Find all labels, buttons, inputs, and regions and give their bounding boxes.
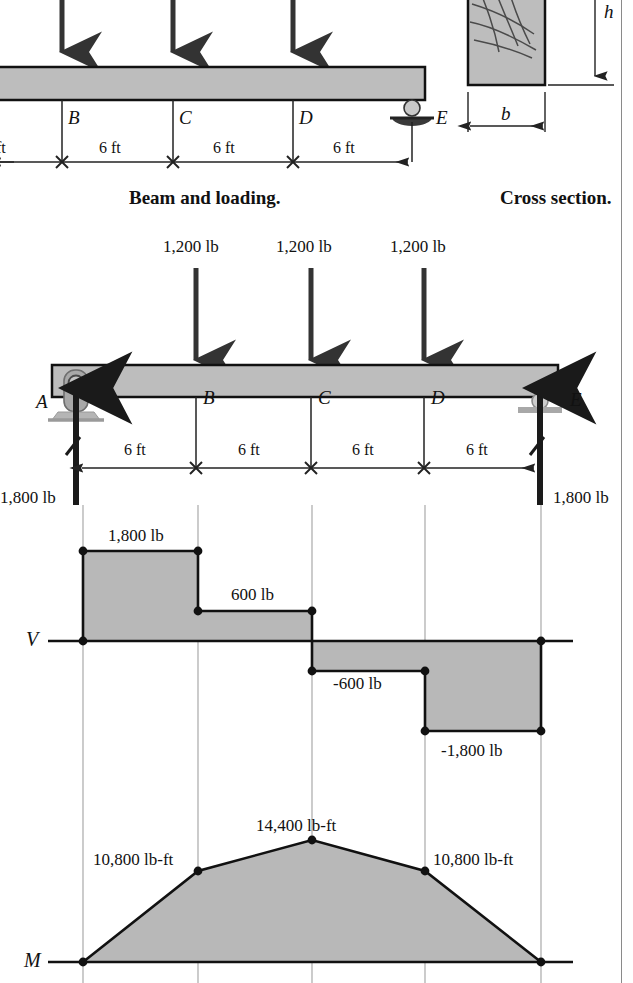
reaction-label-e: 1,800 lb bbox=[553, 489, 609, 506]
shear-annotation-cd: -600 lb bbox=[333, 675, 382, 692]
top-beam-body bbox=[0, 67, 425, 100]
main-beam-station-lines bbox=[196, 397, 424, 468]
top-beam-load-arrows bbox=[62, 0, 293, 52]
main-beam-group bbox=[48, 268, 562, 505]
load-label-b: 1,200 lb bbox=[163, 238, 219, 255]
top-beam-span-label-4: 6 ft bbox=[333, 140, 355, 156]
cross-section-rect bbox=[468, 0, 545, 85]
cross-section-group bbox=[468, 0, 614, 132]
beam-span-label-4: 6 ft bbox=[466, 442, 488, 458]
beam-span-label-1: 6 ft bbox=[124, 442, 146, 458]
beam-point-label-e: E bbox=[570, 390, 582, 409]
top-beam-point-label-c: C bbox=[179, 108, 192, 127]
main-beam-body bbox=[52, 365, 558, 397]
main-beam-dimension-line bbox=[82, 462, 534, 474]
moment-axis-label: M bbox=[24, 950, 41, 970]
top-beam-span-label-1: ft bbox=[0, 140, 6, 156]
beam-span-label-2: 6 ft bbox=[238, 442, 260, 458]
moment-annotation-d: 10,800 lb-ft bbox=[433, 851, 513, 868]
cross-section-width-label: b bbox=[501, 104, 511, 123]
top-beam-span-label-3: 6 ft bbox=[213, 140, 235, 156]
top-beam-dimension-line bbox=[0, 156, 408, 168]
load-label-c: 1,200 lb bbox=[276, 238, 332, 255]
shear-annotation-ab: 1,800 lb bbox=[108, 527, 164, 544]
shear-axis-label: V bbox=[26, 629, 38, 649]
beam-span-label-3: 6 ft bbox=[352, 442, 374, 458]
moment-annotation-c: 14,400 lb-ft bbox=[256, 817, 336, 834]
caption-cross-section: Cross section. bbox=[500, 188, 612, 207]
load-label-d: 1,200 lb bbox=[390, 238, 446, 255]
beam-point-label-b: B bbox=[203, 388, 215, 407]
shear-annotation-bc: 600 lb bbox=[231, 586, 274, 603]
main-beam-load-arrows bbox=[196, 268, 424, 360]
cross-section-height-label: h bbox=[604, 2, 614, 21]
figure-page: B C D E ft 6 ft 6 ft 6 ft Beam and loadi… bbox=[0, 0, 633, 983]
beam-point-label-c: C bbox=[318, 388, 331, 407]
top-beam-point-label-d: D bbox=[299, 108, 313, 127]
top-beam-point-label-e: E bbox=[436, 108, 448, 127]
reaction-label-a: 1,800 lb bbox=[0, 489, 56, 506]
top-beam-span-label-2: 6 ft bbox=[99, 140, 121, 156]
beam-point-label-a: A bbox=[36, 392, 48, 411]
beam-point-label-d: D bbox=[431, 388, 445, 407]
shear-annotation-de: -1,800 lb bbox=[441, 742, 502, 759]
figure-graphics bbox=[0, 0, 633, 983]
moment-annotation-b: 10,800 lb-ft bbox=[93, 851, 173, 868]
top-beam-point-label-b: B bbox=[68, 108, 80, 127]
caption-beam-loading: Beam and loading. bbox=[129, 188, 281, 207]
